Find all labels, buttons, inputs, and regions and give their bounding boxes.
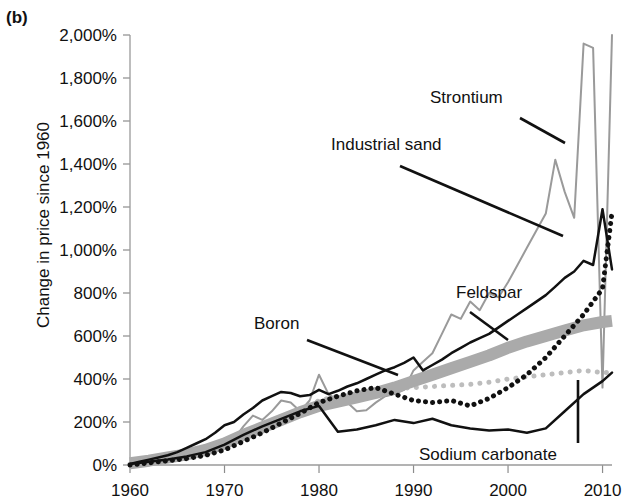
y-axis-ticks: 0%200%400%600%800%1,000%1,200%1,400%1,60… bbox=[59, 26, 130, 475]
x-tick-label: 1970 bbox=[206, 481, 244, 500]
boron-annotation-leader bbox=[307, 340, 398, 375]
industrial-sand-annotation-leader bbox=[400, 166, 563, 236]
strontium-annotation-leader bbox=[520, 118, 565, 143]
y-tick-label: 0% bbox=[92, 456, 117, 475]
y-tick-label: 1,400% bbox=[59, 155, 117, 174]
y-tick-label: 1,800% bbox=[59, 69, 117, 88]
axis-lines bbox=[130, 35, 612, 465]
y-tick-label: 400% bbox=[74, 370, 117, 389]
y-tick-label: 200% bbox=[74, 413, 117, 432]
x-tick-label: 1960 bbox=[111, 481, 149, 500]
sodium-carbonate-annotation-label: Sodium carbonate bbox=[419, 445, 557, 464]
line-chart-plot: 0%200%400%600%800%1,000%1,200%1,400%1,60… bbox=[0, 0, 630, 503]
y-tick-label: 600% bbox=[74, 327, 117, 346]
x-tick-label: 2000 bbox=[489, 481, 527, 500]
series-line-strontium bbox=[130, 35, 612, 465]
strontium-annotation-label: Strontium bbox=[430, 88, 503, 107]
chart-root: (b) Change in price since 1960 0%200%400… bbox=[0, 0, 630, 503]
x-tick-label: 1980 bbox=[300, 481, 338, 500]
x-tick-label: 1990 bbox=[395, 481, 433, 500]
y-tick-label: 2,000% bbox=[59, 26, 117, 45]
x-tick-label: 2010 bbox=[584, 481, 622, 500]
data-series-group bbox=[130, 35, 612, 465]
industrial-sand-annotation-label: Industrial sand bbox=[331, 135, 442, 154]
y-tick-label: 800% bbox=[74, 284, 117, 303]
feldspar-annotation-label: Feldspar bbox=[456, 283, 522, 302]
y-tick-label: 1,200% bbox=[59, 198, 117, 217]
x-axis-ticks: 196019701980199020002010 bbox=[111, 465, 621, 500]
y-tick-label: 1,600% bbox=[59, 112, 117, 131]
y-tick-label: 1,000% bbox=[59, 241, 117, 260]
boron-annotation-label: Boron bbox=[254, 314, 299, 333]
